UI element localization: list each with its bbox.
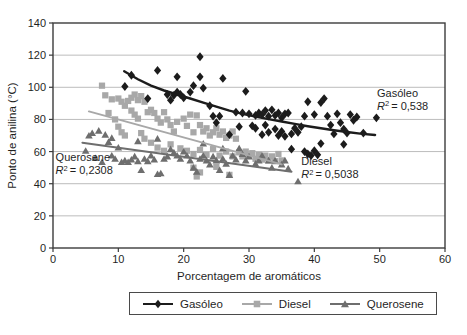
x-tick-label: 30	[243, 253, 255, 265]
legend-item-gasoleo: Gasóleo	[142, 298, 223, 310]
legend-label-gasoleo: Gasóleo	[180, 298, 223, 310]
x-tick-label: 20	[178, 253, 190, 265]
x-tick-label: 50	[374, 253, 386, 265]
y-tick-label: 20	[34, 210, 46, 222]
x-axis-title: Porcentagem de aromáticos	[177, 270, 321, 282]
annotation-diesel-name: Diesel	[301, 155, 332, 167]
annotation-diesel-r2: R2= 0,5038	[301, 168, 358, 181]
legend-item-diesel: Diesel	[241, 298, 311, 310]
y-tick-label: 80	[34, 113, 46, 125]
aniline-point-vs-aromatics-chart: 0204060801001201400102030405060Ponto de …	[0, 0, 467, 335]
legend-label-querosene: Querosene	[367, 298, 424, 310]
y-tick-label: 40	[34, 178, 46, 190]
querosene-legend-marker-icon	[329, 298, 361, 310]
annotation-querosene-r2: R2= 0,2308	[56, 164, 113, 177]
y-tick-label: 120	[28, 49, 46, 61]
legend-label-diesel: Diesel	[279, 298, 311, 310]
plot-area: 0204060801001201400102030405060Ponto de …	[0, 0, 467, 335]
y-tick-label: 0	[40, 242, 46, 254]
legend-item-querosene: Querosene	[329, 298, 424, 310]
annotation-querosene-name: Querosene	[56, 151, 110, 163]
legend: GasóleoDieselQuerosene	[129, 292, 437, 315]
x-tick-label: 40	[308, 253, 320, 265]
y-axis-title: Ponto de anilina (°C)	[6, 82, 18, 188]
annotation-gasoleo-name: Gasóleo	[377, 87, 418, 99]
y-tick-label: 100	[28, 81, 46, 93]
gasoleo-legend-marker-icon	[142, 298, 174, 310]
annotation-gasoleo-r2: R2= 0,538	[377, 99, 428, 112]
diesel-legend-marker-icon	[241, 298, 273, 310]
y-tick-label: 140	[28, 17, 46, 29]
x-tick-label: 0	[50, 253, 56, 265]
x-tick-label: 60	[439, 253, 451, 265]
series-points-gasoleo	[121, 52, 380, 160]
y-tick-label: 60	[34, 146, 46, 158]
x-tick-label: 10	[112, 253, 124, 265]
